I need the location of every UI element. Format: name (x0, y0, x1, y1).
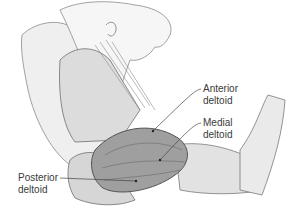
label-anterior-line2: deltoid (203, 95, 238, 107)
forearm-shape (240, 95, 285, 195)
label-medial-deltoid: Medial deltoid (203, 117, 232, 141)
label-posterior-deltoid: Posterior deltoid (18, 172, 58, 196)
label-anterior-deltoid: Anterior deltoid (203, 83, 238, 107)
label-posterior-line2: deltoid (18, 184, 58, 196)
label-posterior-line1: Posterior (18, 172, 58, 184)
label-anterior-line1: Anterior (203, 83, 238, 95)
label-medial-line2: deltoid (203, 129, 232, 141)
label-medial-line1: Medial (203, 117, 232, 129)
